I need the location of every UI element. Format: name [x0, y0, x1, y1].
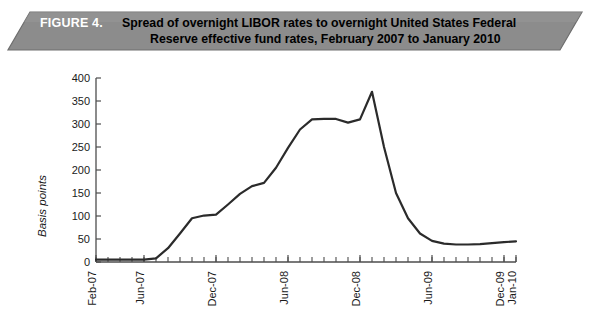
x-tick-label: Feb-07	[86, 271, 98, 306]
x-tick-label: Jan-10	[506, 271, 518, 305]
chart-canvas: Basis points 0 50 100 150 200 250 300 35…	[0, 58, 590, 322]
figure-number-label: FIGURE 4.	[40, 16, 103, 30]
y-axis-title: Basis points	[36, 175, 48, 237]
y-tick-label: 50	[78, 233, 90, 245]
y-axis-tick-labels: 0 50 100 150 200 250 300 350 400	[72, 72, 90, 268]
figure-title-line-1: Spread of overnight LIBOR rates to overn…	[122, 16, 516, 30]
y-tick-label: 150	[72, 187, 90, 199]
banner-text-group: FIGURE 4. Spread of overnight LIBOR rate…	[0, 8, 590, 54]
figure-title-banner: FIGURE 4. Spread of overnight LIBOR rate…	[0, 8, 590, 54]
data-series-line	[96, 92, 516, 260]
y-tick-label: 300	[72, 118, 90, 130]
x-tick-label: Jun-07	[134, 271, 146, 305]
x-tick-label: Dec-09	[494, 271, 506, 306]
x-tick-label: Dec-07	[206, 271, 218, 306]
x-tick-label: Jun-08	[278, 271, 290, 305]
y-tick-label: 200	[72, 164, 90, 176]
y-tick-label: 400	[72, 72, 90, 84]
y-tick-label: 100	[72, 210, 90, 222]
figure-title-line-2: Reserve effective fund rates, February 2…	[150, 32, 501, 46]
y-tick-label: 250	[72, 141, 90, 153]
y-tick-label: 350	[72, 95, 90, 107]
y-axis-ticks	[96, 78, 101, 262]
x-axis-tick-labels: Feb-07Jun-07Dec-07Jun-08Dec-08Jun-09Dec-…	[86, 255, 518, 306]
x-tick-label: Dec-08	[350, 271, 362, 306]
y-tick-label: 0	[84, 256, 90, 268]
x-tick-label: Jun-09	[422, 271, 434, 305]
x-axis-minor-ticks	[96, 257, 516, 262]
line-chart: Basis points 0 50 100 150 200 250 300 35…	[0, 58, 590, 322]
